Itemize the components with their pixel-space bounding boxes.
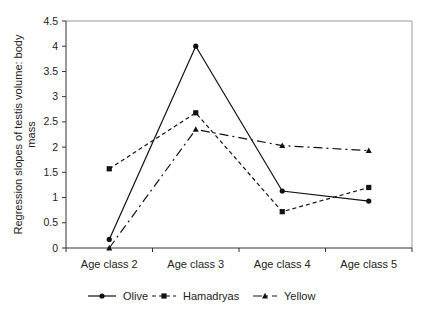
legend-label: Hamadryas [183, 290, 240, 302]
y-axis: 00.511.522.533.544.5 [43, 15, 66, 254]
x-tick-label: Age class 3 [167, 258, 224, 270]
x-tick-label: Age class 4 [254, 258, 311, 270]
legend-item-yellow: Yellow [253, 290, 315, 302]
line-chart: 00.511.522.533.544.5 Age class 2Age clas… [0, 0, 426, 312]
legend: OliveHamadryasYellow [88, 290, 315, 302]
y-tick-label: 0.5 [43, 216, 58, 228]
series-lines [106, 44, 372, 251]
x-tick-label: Age class 5 [340, 258, 397, 270]
y-tick-label: 2 [52, 141, 58, 153]
y-tick-label: 3 [52, 90, 58, 102]
y-tick-label: 1 [52, 191, 58, 203]
legend-label: Yellow [284, 290, 315, 302]
plot-frame [66, 21, 412, 248]
x-axis: Age class 2Age class 3Age class 4Age cla… [66, 248, 412, 270]
y-tick-label: 4.5 [43, 15, 58, 27]
y-tick-label: 0 [52, 242, 58, 254]
series-hamadryas [107, 110, 372, 214]
legend-label: Olive [123, 290, 148, 302]
y-tick-label: 1.5 [43, 166, 58, 178]
svg-text:Regression slopes of testis vo: Regression slopes of testis volume: body [12, 34, 24, 234]
x-tick-label: Age class 2 [81, 258, 138, 270]
legend-item-olive: Olive [88, 290, 148, 302]
y-tick-label: 3.5 [43, 65, 58, 77]
y-tick-label: 4 [52, 40, 58, 52]
legend-item-hamadryas: Hamadryas [152, 290, 240, 302]
y-axis-label: Regression slopes of testis volume: body… [12, 34, 37, 234]
y-tick-label: 2.5 [43, 115, 58, 127]
series-olive [107, 44, 372, 242]
svg-text:mass: mass [25, 121, 37, 148]
